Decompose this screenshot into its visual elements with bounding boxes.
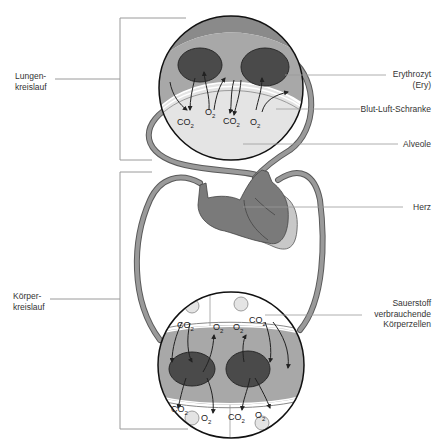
label-line: Alveole: [403, 139, 431, 150]
label-koerperkreislauf: Körper- kreislauf: [13, 291, 45, 312]
label-line: Körper-: [13, 291, 45, 302]
label-line: kreislauf: [13, 302, 45, 313]
label-alveole: Alveole: [403, 139, 431, 150]
label-herz: Herz: [413, 202, 431, 213]
circulation-diagram: CO2 O2 CO2 O2: [0, 0, 444, 445]
label-line: Blut-Luft-Schranke: [361, 104, 431, 115]
label-blut-luft-schranke: Blut-Luft-Schranke: [361, 104, 431, 115]
label-koerperzellen: Sauerstoff verbrauchende Körperzellen: [374, 298, 431, 330]
label-line: verbrauchende: [374, 309, 431, 320]
label-line: Herz: [413, 202, 431, 213]
label-line: (Ery): [393, 80, 431, 91]
tissue-capillary-detail: CO2 O2 O2 CO2 CO2 O2 CO2 O2: [150, 290, 310, 440]
label-lungenkreislauf: Lungen- kreislauf: [15, 71, 47, 92]
label-line: Körperzellen: [374, 319, 431, 330]
heart: [198, 170, 297, 249]
label-line: kreislauf: [15, 82, 47, 93]
diagram-canvas: CO2 O2 CO2 O2: [0, 0, 444, 445]
label-line: Sauerstoff: [374, 298, 431, 309]
label-line: Erythrozyt: [393, 69, 431, 80]
label-line: Lungen-: [15, 71, 47, 82]
label-erythrozyt: Erythrozyt (Ery): [393, 69, 431, 90]
